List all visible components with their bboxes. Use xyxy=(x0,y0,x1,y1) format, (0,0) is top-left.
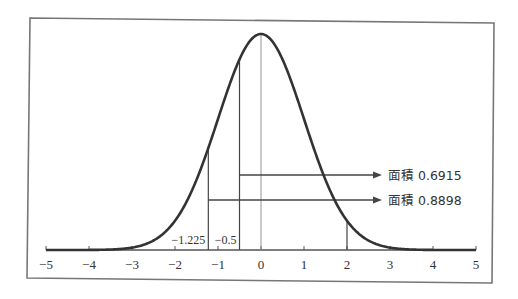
area-arrows xyxy=(208,172,382,204)
x-tick-label: −3 xyxy=(125,257,139,272)
x-tick-label: 5 xyxy=(473,257,480,272)
vertical-lines xyxy=(208,34,347,250)
arrow-head xyxy=(373,172,382,179)
x-tick-label: 1 xyxy=(301,257,308,272)
x-tick-label: 0 xyxy=(258,257,265,272)
normal-distribution-chart: −5−4−3−2−1012345 −1.225−0.5面積 0.6915面積 0… xyxy=(0,0,518,299)
x-tick-label: −2 xyxy=(168,257,182,272)
x-tick-label: −4 xyxy=(82,257,96,272)
chart-frame xyxy=(27,18,494,283)
x-tick-label: 2 xyxy=(344,257,351,272)
area-label: 面積 0.6915 xyxy=(388,168,462,183)
x-tick-label: −5 xyxy=(39,257,53,272)
annotation-labels: −1.225−0.5面積 0.6915面積 0.8898 xyxy=(172,168,462,248)
area-label: 面積 0.8898 xyxy=(388,193,462,208)
x-tick-label: −1 xyxy=(211,257,225,272)
vertical-line-label: −0.5 xyxy=(215,233,237,247)
x-tick-label: 3 xyxy=(387,257,394,272)
arrow-head xyxy=(373,197,382,204)
vertical-line-label: −1.225 xyxy=(172,233,206,247)
x-tick-label: 4 xyxy=(430,257,437,272)
